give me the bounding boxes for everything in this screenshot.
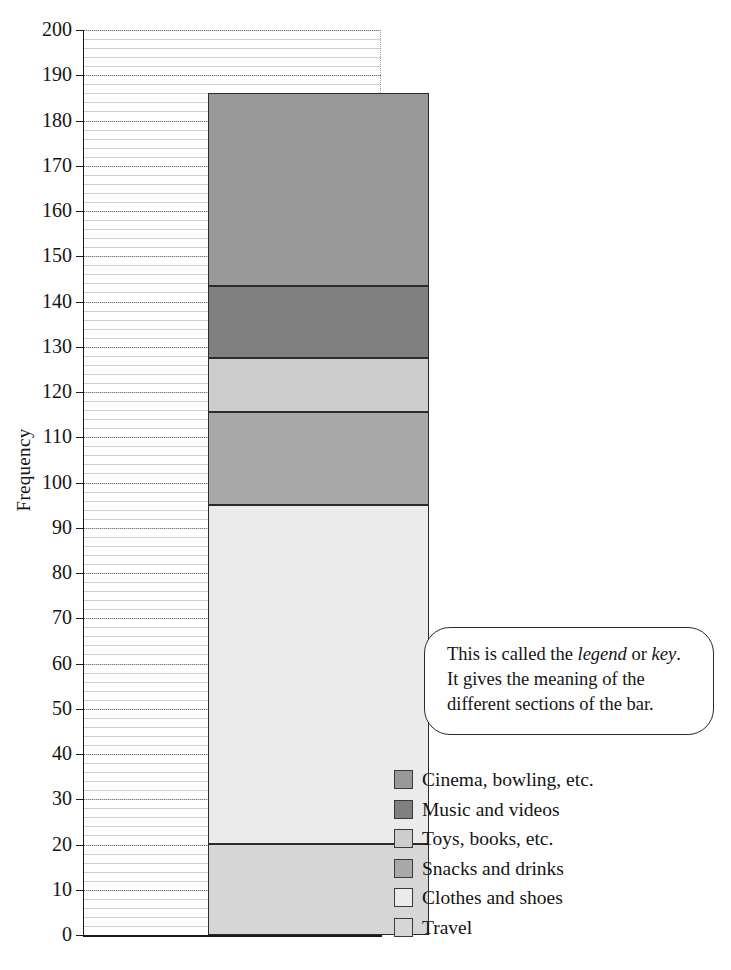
y-axis-tick-label: 80 [14, 562, 72, 582]
y-axis-tick-label: 140 [14, 291, 72, 311]
legend-item-label: Clothes and shoes [422, 888, 563, 908]
y-axis-tick-label: 50 [14, 698, 72, 718]
y-axis-tick [76, 302, 84, 303]
callout-line-3: different sections of the bar. [447, 692, 693, 717]
y-axis-tick [76, 528, 84, 529]
y-axis-tick-label: 160 [14, 200, 72, 220]
y-axis-tick [76, 211, 84, 212]
y-axis-tick [76, 75, 84, 76]
y-axis-tick [76, 845, 84, 846]
legend-item[interactable]: Snacks and drinks [394, 854, 724, 884]
y-axis-tick-label: 100 [14, 472, 72, 492]
y-axis-tick-label: 40 [14, 743, 72, 763]
y-axis-tick [76, 799, 84, 800]
y-axis-tick-label: 150 [14, 245, 72, 265]
y-axis-tick [76, 483, 84, 484]
legend-item[interactable]: Toys, books, etc. [394, 824, 724, 854]
x-axis-line [83, 935, 382, 937]
y-axis-tick-label: 200 [14, 19, 72, 39]
legend-item[interactable]: Music and videos [394, 795, 724, 825]
bar-segment[interactable] [208, 93, 429, 285]
y-axis-tick-label: 60 [14, 653, 72, 673]
callout-line-1: This is called the legend or key. [447, 642, 693, 667]
y-axis-tick-label: 110 [14, 426, 72, 446]
y-axis-tick-label: 170 [14, 155, 72, 175]
gridline-minor [84, 39, 381, 40]
legend-item-label: Snacks and drinks [422, 859, 564, 879]
y-axis-tick-label: 90 [14, 517, 72, 537]
y-axis-tick [76, 347, 84, 348]
callout-line-2: It gives the meaning of the [447, 667, 693, 692]
legend-item[interactable]: Cinema, bowling, etc. [394, 765, 724, 795]
y-axis-tick [76, 664, 84, 665]
gridline-minor [84, 84, 381, 85]
y-axis-tick-label: 70 [14, 607, 72, 627]
legend-item[interactable]: Travel [394, 913, 724, 943]
callout-text-after: . [676, 644, 681, 664]
legend-swatch-icon [394, 859, 413, 878]
legend-item[interactable]: Clothes and shoes [394, 883, 724, 913]
legend-item-label: Travel [422, 918, 472, 938]
y-axis-tick [76, 618, 84, 619]
plot-area [84, 30, 381, 935]
y-axis-tick [76, 392, 84, 393]
y-axis-tick [76, 121, 84, 122]
legend-swatch-icon [394, 770, 413, 789]
y-axis-tick-label: 10 [14, 879, 72, 899]
y-axis-tick-label: 190 [14, 64, 72, 84]
gridline-minor [84, 57, 381, 58]
chart-figure: Frequency 010203040506070809010011012013… [0, 0, 731, 970]
legend-item-label: Cinema, bowling, etc. [422, 770, 594, 790]
chart-legend: Cinema, bowling, etc.Music and videosToy… [394, 765, 724, 942]
callout-text-before: This is called the [447, 644, 578, 664]
y-axis-tick-labels: 0102030405060708090100110120130140150160… [0, 0, 72, 970]
legend-item-label: Music and videos [422, 800, 560, 820]
bar-segment[interactable] [208, 358, 429, 412]
y-axis-tick [76, 754, 84, 755]
y-axis-tick [76, 573, 84, 574]
legend-swatch-icon [394, 888, 413, 907]
bar-segment[interactable] [208, 412, 429, 505]
legend-swatch-icon [394, 800, 413, 819]
callout-em-legend: legend [578, 644, 627, 664]
callout-box: This is called the legend or key. It giv… [424, 627, 714, 735]
y-axis-tick [76, 709, 84, 710]
y-axis-tick [76, 890, 84, 891]
gridline-minor [84, 66, 381, 67]
legend-swatch-icon [394, 918, 413, 937]
y-axis-tick-label: 120 [14, 381, 72, 401]
y-axis-tick-label: 0 [14, 924, 72, 944]
y-axis-tick [76, 256, 84, 257]
legend-swatch-icon [394, 829, 413, 848]
y-axis-tick-label: 30 [14, 788, 72, 808]
gridline-major [84, 75, 381, 76]
gridline-major [84, 30, 381, 31]
bar-segment[interactable] [208, 286, 429, 358]
callout-em-key: key [651, 644, 676, 664]
gridline-minor [84, 48, 381, 49]
y-axis-tick-label: 180 [14, 110, 72, 130]
y-axis-tick [76, 437, 84, 438]
legend-item-label: Toys, books, etc. [422, 829, 553, 849]
y-axis-tick-label: 20 [14, 834, 72, 854]
y-axis-tick [76, 30, 84, 31]
callout-text-mid: or [627, 644, 652, 664]
y-axis-tick-label: 130 [14, 336, 72, 356]
y-axis-tick [76, 166, 84, 167]
